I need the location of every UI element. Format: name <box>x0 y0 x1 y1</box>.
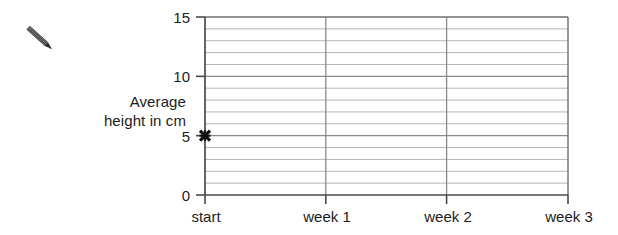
y-tick-label-15: 15 <box>173 9 190 26</box>
x-tick-label-week-1: week 1 <box>302 208 351 225</box>
y-axis-ticks <box>196 17 205 195</box>
y-tick-label-5: 5 <box>182 128 190 145</box>
growth-line-chart: 15 10 5 0 start week 1 week 2 week 3 <box>0 0 618 235</box>
grid-horizontal-minor <box>205 29 568 183</box>
chart-canvas: Average height in cm <box>0 0 618 235</box>
grid-vertical <box>326 17 447 195</box>
data-point-marker-start <box>200 130 211 141</box>
grid-horizontal-major <box>205 76 568 135</box>
plot-frame <box>205 17 568 195</box>
x-tick-label-week-3: week 3 <box>544 208 593 225</box>
x-axis-ticks <box>205 195 568 204</box>
x-tick-label-week-2: week 2 <box>423 208 472 225</box>
y-tick-label-10: 10 <box>173 68 190 85</box>
x-tick-label-start: start <box>191 208 221 225</box>
y-tick-label-0: 0 <box>182 187 190 204</box>
